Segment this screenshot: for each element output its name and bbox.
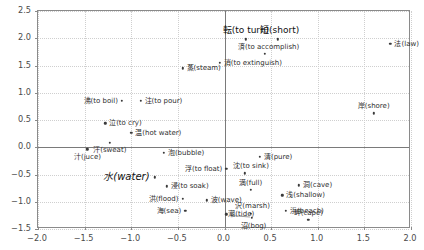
data-point-label: 沈(to sink) bbox=[233, 163, 269, 170]
data-point[interactable] bbox=[109, 142, 111, 144]
data-point[interactable] bbox=[263, 52, 265, 54]
gridline-horizontal bbox=[38, 11, 409, 12]
y-zero-axis bbox=[225, 11, 226, 227]
x-tick-mark bbox=[131, 227, 132, 230]
y-axis-tick-label: 0.0 bbox=[0, 141, 31, 151]
x-tick-mark bbox=[364, 227, 365, 230]
x-tick-mark bbox=[178, 227, 179, 230]
data-point-label: 海(sea) bbox=[157, 208, 182, 215]
data-point[interactable] bbox=[165, 185, 167, 187]
x-tick-mark bbox=[318, 227, 319, 230]
data-point[interactable] bbox=[121, 100, 123, 102]
x-tick-mark bbox=[225, 227, 226, 230]
data-point[interactable] bbox=[389, 42, 391, 44]
data-point-label: 済(to accomplish) bbox=[238, 43, 299, 50]
data-point-label: 洪(flood) bbox=[149, 196, 179, 203]
gridline-horizontal bbox=[38, 229, 409, 230]
data-point[interactable] bbox=[307, 219, 309, 221]
data-point[interactable] bbox=[225, 168, 227, 170]
data-point-label: 泣(to cry) bbox=[109, 120, 142, 127]
data-point-label: 蒸(steam) bbox=[187, 65, 221, 72]
data-point-label: 岸(shore) bbox=[358, 103, 390, 110]
x-axis-tick-label: 2.0 bbox=[403, 233, 416, 243]
data-point[interactable] bbox=[181, 198, 183, 200]
data-point[interactable] bbox=[86, 148, 88, 150]
data-point[interactable] bbox=[249, 189, 251, 191]
gridline-horizontal bbox=[38, 175, 409, 176]
x-tick-mark bbox=[271, 227, 272, 230]
x-tick-mark bbox=[411, 227, 412, 230]
data-point[interactable] bbox=[259, 155, 261, 157]
data-point[interactable] bbox=[225, 213, 227, 215]
data-point-label: 洞(cave) bbox=[303, 182, 332, 189]
data-point-label: 満(full) bbox=[239, 179, 262, 186]
data-point-label: 水(water) bbox=[103, 172, 149, 182]
data-point-label: 岬(cape) bbox=[294, 209, 323, 216]
x-axis-tick-label: −0.5 bbox=[167, 233, 187, 243]
x-tick-mark bbox=[85, 227, 86, 230]
x-axis-tick-label: 0.0 bbox=[217, 233, 230, 243]
data-point[interactable] bbox=[372, 112, 374, 114]
data-point-label: 沢(marsh) bbox=[235, 202, 270, 209]
data-point-label: 消(to extinguish) bbox=[224, 59, 282, 66]
data-point-label: 沸(to boil) bbox=[84, 97, 118, 104]
y-axis-tick-label: −1.0 bbox=[0, 196, 31, 206]
data-point-label: 浸(to soak) bbox=[171, 183, 209, 190]
y-axis-tick-label: −0.5 bbox=[0, 169, 31, 179]
data-point-label: 清(pure) bbox=[264, 153, 292, 160]
data-point[interactable] bbox=[181, 67, 183, 69]
y-axis-tick-label: 0.5 bbox=[0, 114, 31, 124]
x-axis-tick-label: −1.5 bbox=[74, 233, 94, 243]
y-axis-tick-label: 2.0 bbox=[0, 32, 31, 42]
gridline-vertical bbox=[38, 11, 39, 227]
data-point[interactable] bbox=[153, 176, 155, 178]
y-axis-tick-label: 1.5 bbox=[0, 60, 31, 70]
data-point-label: 短(short) bbox=[260, 26, 299, 35]
gridline-vertical bbox=[364, 11, 365, 227]
x-axis-tick-label: −1.0 bbox=[120, 233, 140, 243]
data-point-label: 浅(shallow) bbox=[286, 192, 325, 199]
x-axis-tick-label: 0.5 bbox=[264, 233, 277, 243]
data-point-label: 注(to pour) bbox=[145, 97, 183, 104]
data-point-label: 汁(juce) bbox=[74, 154, 101, 161]
x-axis-tick-label: −2.0 bbox=[27, 233, 47, 243]
x-axis-tick-label: 1.5 bbox=[357, 233, 370, 243]
data-point-label: 温(hot water) bbox=[135, 130, 181, 137]
gridline-horizontal bbox=[38, 93, 409, 94]
data-point[interactable] bbox=[139, 100, 141, 102]
gridline-horizontal bbox=[38, 38, 409, 39]
data-point-label: 泡(bubble) bbox=[168, 149, 204, 156]
y-axis-tick-label: 2.5 bbox=[0, 5, 31, 15]
gridline-vertical bbox=[85, 11, 86, 227]
gridline-horizontal bbox=[38, 120, 409, 121]
data-point-label: 沼(bog) bbox=[241, 223, 267, 230]
y-axis-tick-label: 1.0 bbox=[0, 87, 31, 97]
data-point-label: 浮(to float) bbox=[185, 166, 222, 173]
data-point[interactable] bbox=[285, 210, 287, 212]
data-point[interactable] bbox=[184, 210, 186, 212]
y-axis-tick-label: −1.5 bbox=[0, 223, 31, 233]
x-tick-mark bbox=[38, 227, 39, 230]
data-point[interactable] bbox=[104, 122, 106, 124]
scatter-chart-root: 転(to turn)短(short)法(law)済(to accomplish)… bbox=[0, 0, 424, 250]
data-point[interactable] bbox=[281, 194, 283, 196]
data-point[interactable] bbox=[163, 151, 165, 153]
x-axis-tick-label: 1.0 bbox=[310, 233, 323, 243]
plot-area: 転(to turn)短(short)法(law)済(to accomplish)… bbox=[37, 10, 410, 228]
data-point-label: 法(law) bbox=[394, 40, 418, 47]
data-point[interactable] bbox=[298, 184, 300, 186]
